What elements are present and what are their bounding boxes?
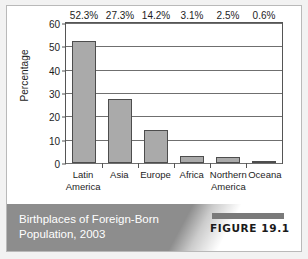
x-tick-label-line: Europe xyxy=(137,169,173,181)
x-tick-label-line: Latin xyxy=(65,169,101,181)
figure-tag-label: FIGURE 19.1 xyxy=(210,222,293,234)
x-tick-label-line: Oceana xyxy=(247,169,283,181)
x-tick-label: NorthernAmerica xyxy=(210,169,247,192)
figure-tag-rule xyxy=(212,213,284,219)
bar[interactable]: 52.3% xyxy=(72,41,96,163)
x-tick-label: Africa xyxy=(174,169,210,192)
x-tick-mark xyxy=(210,163,211,168)
caption-line-1: Birthplaces of Foreign-Born xyxy=(19,212,194,227)
bar[interactable]: 27.3% xyxy=(108,99,132,163)
bar-value-label: 14.2% xyxy=(142,10,170,21)
figure-caption: Birthplaces of Foreign-Born Population, … xyxy=(19,212,194,242)
y-tick-label: 40 xyxy=(49,65,60,76)
bar-value-label: 27.3% xyxy=(106,10,134,21)
x-tick-label-line: Asia xyxy=(101,169,137,181)
caption-line-2: Population, 2003 xyxy=(19,227,194,242)
y-tick-label: 20 xyxy=(49,112,60,123)
bar[interactable]: 0.6% xyxy=(252,161,276,163)
x-tick-label: Europe xyxy=(137,169,173,192)
figure-tag-group: FIGURE 19.1 xyxy=(210,213,293,234)
plot-area: 0102030405060 52.3%27.3%14.2%3.1%2.5%0.6… xyxy=(65,22,283,164)
bar-value-label: 2.5% xyxy=(217,10,240,21)
bar-value-label: 3.1% xyxy=(181,10,204,21)
figure-root: Percentage 0102030405060 52.3%27.3%14.2%… xyxy=(0,0,308,259)
x-tick-mark xyxy=(102,163,103,168)
y-tick-label: 50 xyxy=(49,42,60,53)
bar-slot: 14.2% xyxy=(138,23,174,163)
y-axis-title: Percentage xyxy=(19,21,30,131)
bar-slot: 27.3% xyxy=(102,23,138,163)
bar-value-label: 0.6% xyxy=(253,10,276,21)
x-tick-label-line: America xyxy=(210,181,247,193)
bar-series: 52.3%27.3%14.2%3.1%2.5%0.6% xyxy=(66,23,282,163)
bar-slot: 0.6% xyxy=(246,23,282,163)
x-tick-mark xyxy=(174,163,175,168)
y-tick-label: 10 xyxy=(49,135,60,146)
x-tick-label: Oceana xyxy=(247,169,283,192)
y-tick-label: 30 xyxy=(49,89,60,100)
figure-card: Percentage 0102030405060 52.3%27.3%14.2%… xyxy=(6,5,302,252)
bar[interactable]: 3.1% xyxy=(180,156,204,163)
bar-value-label: 52.3% xyxy=(70,10,98,21)
y-tick-label: 0 xyxy=(54,159,60,170)
bar-slot: 2.5% xyxy=(210,23,246,163)
x-tick-label-line: America xyxy=(65,181,101,193)
y-tick-label: 60 xyxy=(49,19,60,30)
y-tick-mark xyxy=(62,164,66,165)
caption-band: Birthplaces of Foreign-Born Population, … xyxy=(7,204,301,251)
x-tick-label: LatinAmerica xyxy=(65,169,101,192)
x-tick-label: Asia xyxy=(101,169,137,192)
bar-slot: 3.1% xyxy=(174,23,210,163)
bar[interactable]: 14.2% xyxy=(144,130,168,163)
x-tick-label-line: Africa xyxy=(174,169,210,181)
x-tick-mark xyxy=(246,163,247,168)
bar-chart: Percentage 0102030405060 52.3%27.3%14.2%… xyxy=(7,6,301,204)
bar[interactable]: 2.5% xyxy=(216,157,240,163)
x-tick-mark xyxy=(138,163,139,168)
x-axis-labels: LatinAmericaAsiaEuropeAfricaNorthernAmer… xyxy=(65,169,283,192)
x-tick-label-line: Northern xyxy=(210,169,247,181)
bar-slot: 52.3% xyxy=(66,23,102,163)
